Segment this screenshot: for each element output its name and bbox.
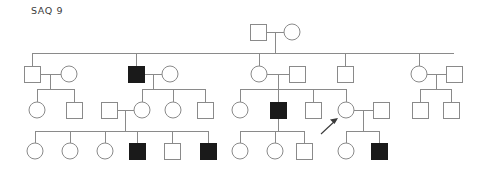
individual-symbols [24, 24, 462, 159]
individual-iii-8-male-affected[interactable] [270, 102, 286, 118]
proband-arrow-head [330, 118, 338, 124]
individual-iv-1-female-unaffected[interactable] [27, 143, 43, 159]
individual-iv-8-female-unaffected[interactable] [267, 143, 283, 159]
individual-iv-5-male-unaffected[interactable] [164, 143, 180, 159]
connector-lines [32, 32, 454, 143]
individual-i-1-male-unaffected[interactable] [250, 24, 266, 40]
individual-ii-8-female-unaffected[interactable] [411, 66, 427, 82]
individual-iii-1-female-unaffected[interactable] [29, 102, 45, 118]
individual-i-2-female-unaffected[interactable] [284, 24, 300, 40]
individual-iii-3-male-unaffected[interactable] [101, 102, 117, 118]
individual-ii-2-female-unaffected[interactable] [61, 66, 77, 82]
individual-iii-9-male-unaffected[interactable] [305, 102, 321, 118]
individual-ii-6-male-unaffected[interactable] [289, 66, 305, 82]
pedigree-figure: SAQ 9 [0, 0, 498, 174]
proband-arrow-icon [321, 118, 338, 134]
individual-ii-9-male-unaffected[interactable] [446, 66, 462, 82]
individual-iii-6-male-unaffected[interactable] [197, 102, 213, 118]
individual-iv-7-female-unaffected[interactable] [232, 143, 248, 159]
individual-iv-9-male-unaffected[interactable] [296, 143, 312, 159]
individual-iv-6-male-affected[interactable] [200, 143, 216, 159]
individual-iii-12-male-unaffected[interactable] [412, 102, 428, 118]
individual-iii-10-female-unaffected-proband[interactable] [338, 102, 354, 118]
individual-iv-11-male-affected[interactable] [371, 143, 387, 159]
individual-iii-13-male-unaffected[interactable] [443, 102, 459, 118]
individual-iii-4-female-unaffected[interactable] [134, 102, 150, 118]
individual-ii-7-male-unaffected[interactable] [337, 66, 353, 82]
individual-iv-2-female-unaffected[interactable] [62, 143, 78, 159]
individual-ii-4-female-unaffected[interactable] [162, 66, 178, 82]
individual-iv-4-male-affected[interactable] [129, 143, 145, 159]
pedigree-diagram [0, 0, 498, 174]
individual-iv-3-female-unaffected[interactable] [97, 143, 113, 159]
individual-iii-7-female-unaffected[interactable] [232, 102, 248, 118]
individual-ii-5-female-unaffected[interactable] [251, 66, 267, 82]
individual-iii-5-female-unaffected[interactable] [165, 102, 181, 118]
individual-iv-10-female-unaffected[interactable] [338, 143, 354, 159]
individual-ii-1-male-unaffected[interactable] [24, 66, 40, 82]
individual-iii-2-male-unaffected[interactable] [66, 102, 82, 118]
individual-ii-3-male-affected[interactable] [128, 66, 144, 82]
individual-iii-11-male-unaffected[interactable] [373, 102, 389, 118]
